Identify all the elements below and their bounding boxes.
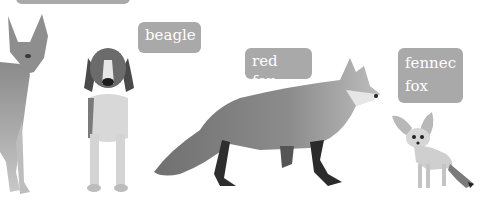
label-fennec-fox: fennec fox — [398, 48, 463, 103]
label-top-cut — [16, 0, 130, 4]
label-fennec-line1: fennec — [405, 54, 456, 72]
jackal-image — [0, 12, 62, 202]
label-fennec-line2: fox — [405, 77, 428, 95]
beagle-image — [78, 46, 140, 196]
red-fox-image — [150, 50, 382, 192]
label-beagle: beagle — [138, 22, 201, 53]
fennec-fox-image — [388, 110, 478, 192]
